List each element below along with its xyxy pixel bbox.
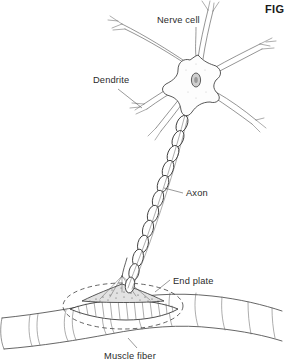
end-plate-terminal-mound <box>82 284 164 303</box>
label-axon-group: Axon <box>164 188 208 198</box>
muscle-fiber-bottom-edge <box>4 326 282 349</box>
myelin-segments <box>124 114 190 294</box>
cell-body <box>163 55 221 116</box>
leader-muscle-fiber <box>128 338 137 348</box>
end-plate-group <box>63 258 183 329</box>
dendrite-top <box>198 1 219 59</box>
nucleolus <box>194 77 198 83</box>
leader-dendrite <box>118 89 142 108</box>
axon-group <box>124 114 190 294</box>
axon-terminal-stem <box>122 258 127 277</box>
muscle-fiber-left-end <box>1 318 4 349</box>
end-plate-slab <box>70 300 178 320</box>
label-nerve-cell: Nerve cell <box>157 15 200 25</box>
label-muscle-fiber-group: Muscle fiber <box>104 338 156 361</box>
neuron-diagram: Nerve cell and motor end plate on muscle… <box>0 0 303 362</box>
dendrite-right-lower <box>212 92 266 132</box>
label-muscle-fiber: Muscle fiber <box>104 351 156 361</box>
label-dendrite: Dendrite <box>93 75 129 85</box>
label-axon: Axon <box>186 188 208 198</box>
figure-caption: FIG <box>265 3 284 15</box>
label-end-plate-group: End plate <box>155 276 214 292</box>
label-end-plate: End plate <box>173 276 214 286</box>
dendrite-upper-right <box>214 38 276 73</box>
figure-container: Nerve cell and motor end plate on muscle… <box>0 0 303 362</box>
leader-end-plate <box>155 280 170 292</box>
